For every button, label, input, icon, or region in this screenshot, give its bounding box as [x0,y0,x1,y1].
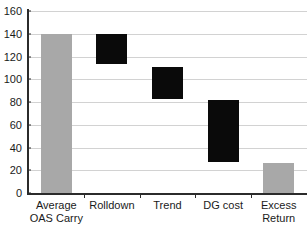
x-axis-label-line: OAS Carry [29,212,85,225]
y-tick-label: 140 [4,28,22,39]
y-tick-mark [27,33,31,34]
y-tick-mark [27,11,31,12]
x-axis-label-line: Return [251,212,307,225]
x-axis-label-dg-cost: DG cost [195,199,251,212]
x-axis-label-average-oas-carry: AverageOAS Carry [29,199,85,225]
x-tick-mark [251,194,252,198]
x-axis-label-line: Average [29,199,85,212]
bar-rolldown [96,34,127,65]
y-tick-mark [27,102,31,103]
x-axis-label-excess-return: ExcessReturn [251,199,307,225]
x-axis-label-line: DG cost [195,199,251,212]
y-tick-label: 0 [16,188,22,199]
bar-trend [152,67,183,99]
y-tick-label: 80 [10,97,22,108]
x-axis-label-line: Rolldown [84,199,140,212]
y-tick-mark [27,193,31,194]
y-tick-label: 20 [10,165,22,176]
waterfall-chart: 160140120100806040200 AverageOAS CarryRo… [0,0,308,236]
x-tick-mark [195,194,196,198]
y-tick-mark [27,79,31,80]
x-axis-label-line: Trend [140,199,196,212]
y-tick-label: 60 [10,119,22,130]
x-axis-label-line: Excess [251,199,307,212]
y-tick-label: 160 [4,6,22,17]
plot-area [29,11,307,193]
x-axis-label-trend: Trend [140,199,196,212]
bar-dg-cost [208,100,239,163]
x-tick-mark [140,194,141,198]
y-tick-mark [27,56,31,57]
y-tick-mark [27,170,31,171]
y-tick-mark [27,147,31,148]
x-axis-label-rolldown: Rolldown [84,199,140,212]
x-axis-line [27,193,307,195]
y-tick-label: 100 [4,74,22,85]
y-tick-label: 120 [4,51,22,62]
y-axis-labels: 160140120100806040200 [0,0,26,236]
x-axis-labels: AverageOAS CarryRolldownTrendDG costExce… [29,199,307,236]
bar-average-oas-carry [41,34,72,193]
y-tick-mark [27,124,31,125]
y-tick-label: 40 [10,142,22,153]
x-tick-mark [84,194,85,198]
gridline [29,11,307,12]
bar-excess-return [263,163,294,193]
